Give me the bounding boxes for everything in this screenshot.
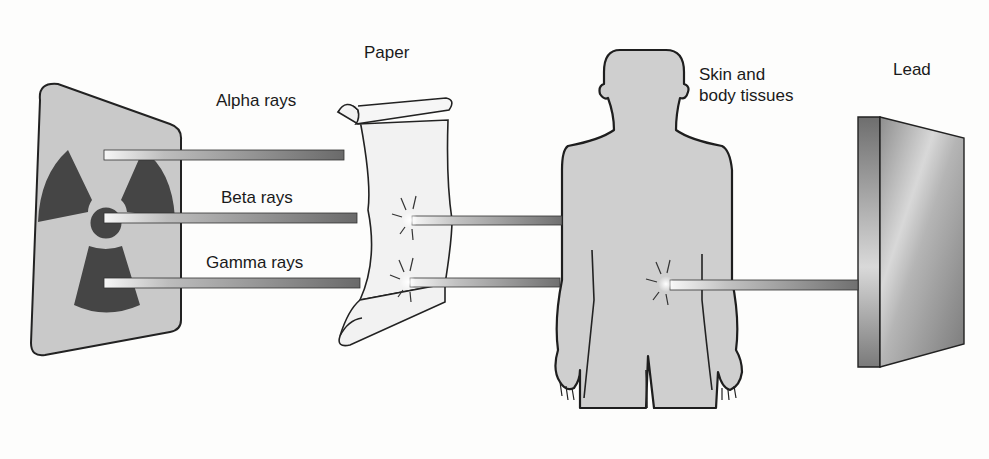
paper-label: Paper bbox=[364, 43, 409, 63]
diagram-scene bbox=[0, 0, 989, 459]
lead-label: Lead bbox=[893, 60, 931, 80]
skin-tissues-label-line2: body tissues bbox=[699, 86, 794, 106]
skin-tissues-label-line1: Skin and bbox=[699, 65, 765, 85]
alpha-rays-label: Alpha rays bbox=[216, 91, 296, 111]
beta-rays-label: Beta rays bbox=[221, 188, 293, 208]
radiation-penetration-diagram: Alpha rays Beta rays Gamma rays Paper Sk… bbox=[0, 0, 989, 459]
alpha-ray bbox=[104, 150, 344, 160]
lead-block bbox=[858, 117, 964, 367]
gamma-rays-label: Gamma rays bbox=[206, 253, 303, 273]
